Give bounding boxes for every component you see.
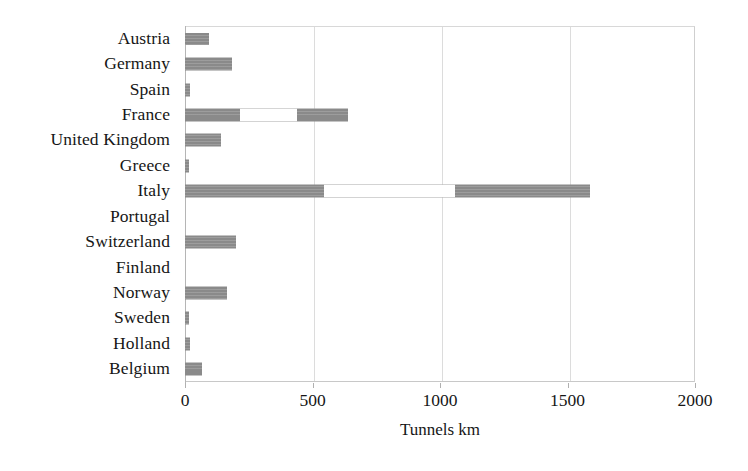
tunnels-km-bar-chart: AustriaGermanySpainFranceUnited KingdomG… <box>0 0 748 471</box>
bar <box>185 134 221 147</box>
category-label: United Kingdom <box>50 132 170 150</box>
gridline-1500 <box>570 27 571 381</box>
bar <box>185 83 190 96</box>
x-tick-mark <box>568 383 569 388</box>
category-label: Germany <box>104 55 170 73</box>
x-tick-label: 1500 <box>550 392 585 410</box>
category-label: Holland <box>113 335 170 353</box>
plot-area <box>185 26 695 382</box>
x-tick-mark <box>695 383 696 388</box>
bar <box>185 363 202 376</box>
bar <box>185 287 227 300</box>
category-label: France <box>122 106 170 124</box>
category-label: Portugal <box>110 208 170 226</box>
gridline-1000 <box>442 27 443 381</box>
category-label: Finland <box>116 259 170 277</box>
x-tick-label: 0 <box>181 392 190 410</box>
category-axis-labels: AustriaGermanySpainFranceUnited KingdomG… <box>0 26 178 382</box>
gridline-500 <box>314 27 315 381</box>
x-tick-label: 2000 <box>678 392 713 410</box>
bar <box>185 159 189 172</box>
bar <box>185 58 232 71</box>
x-tick-label: 1000 <box>423 392 458 410</box>
bar <box>185 236 236 249</box>
category-label: Sweden <box>114 310 170 328</box>
bar-scan-dropout <box>240 109 297 122</box>
bar <box>185 312 189 325</box>
bar <box>185 185 590 198</box>
x-tick-mark <box>440 383 441 388</box>
category-label: Belgium <box>109 361 170 379</box>
x-tick-label: 500 <box>299 392 325 410</box>
category-label: Austria <box>118 30 170 48</box>
bar <box>185 337 190 350</box>
bar <box>185 33 209 45</box>
x-tick-mark <box>313 383 314 388</box>
x-axis-title: Tunnels km <box>185 420 695 440</box>
x-tick-mark <box>185 383 186 388</box>
category-label: Greece <box>120 157 170 175</box>
category-label: Italy <box>137 183 170 201</box>
value-axis-line <box>185 26 186 383</box>
category-label: Spain <box>130 81 170 99</box>
bar-scan-dropout <box>324 185 455 198</box>
category-label: Switzerland <box>85 233 170 251</box>
bar <box>185 109 348 122</box>
category-label: Norway <box>113 284 170 302</box>
